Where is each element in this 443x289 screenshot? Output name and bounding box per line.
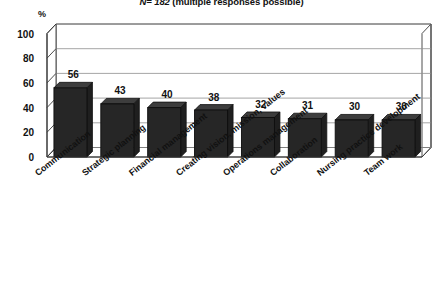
x-axis-category-label: Collaboration — [268, 135, 319, 178]
x-axis-category-label: Team work — [362, 142, 404, 178]
x-axis-category-labels: CommunicationStrategic planningFinancial… — [0, 0, 443, 289]
bar-chart: N= 182 (multiple responses possible) % 0… — [0, 0, 443, 289]
x-axis-category-label: Financial management — [127, 111, 209, 178]
x-axis-category-label: Operations management — [221, 106, 309, 178]
